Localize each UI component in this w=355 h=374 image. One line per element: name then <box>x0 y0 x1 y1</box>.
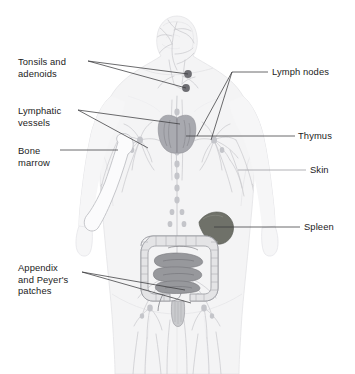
thymus <box>158 115 196 153</box>
label-skin: Skin <box>310 164 329 176</box>
label-tonsils-and-adenoids: Tonsils and adenoids <box>18 56 66 79</box>
label-thymus: Thymus <box>298 130 332 142</box>
label-lymph-nodes: Lymph nodes <box>272 66 329 78</box>
label-lymphatic-vessels: Lymphatic vessels <box>18 105 61 128</box>
label-appendix-and-peyers-patches: Appendix and Peyer's patches <box>18 262 68 297</box>
lymphatic-system-figure: Tonsils and adenoids Lymphatic vessels B… <box>0 0 355 374</box>
label-spleen: Spleen <box>304 221 334 233</box>
label-bone-marrow: Bone marrow <box>18 145 50 168</box>
